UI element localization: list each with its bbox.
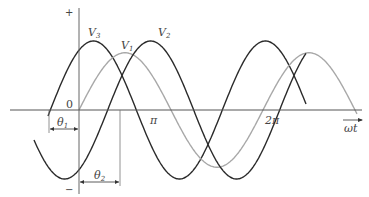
tick-label-2pi: 2π — [264, 114, 280, 127]
wave-label-v2: V2 — [158, 26, 171, 40]
origin-label: 0 — [66, 98, 73, 111]
wave-label-v3: V3 — [88, 26, 101, 40]
wave-label-v1: V1 — [121, 39, 133, 53]
plus-label: + — [65, 7, 73, 18]
theta1-label: θ1 — [57, 116, 68, 130]
tick-label-pi: π — [149, 114, 158, 127]
theta2-label: θ2 — [94, 169, 106, 183]
omega-t-label: ωt — [344, 122, 358, 135]
phase-diagram: + − 0 π 2π ωt V3 V1 V2 θ1 θ2 — [0, 0, 369, 197]
minus-label: − — [65, 184, 73, 195]
